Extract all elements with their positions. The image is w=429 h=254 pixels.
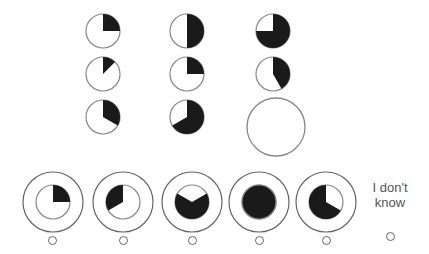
pie-fill xyxy=(103,14,120,31)
grid-cell-r1c1 xyxy=(86,14,120,48)
dont-know-label: I don't know xyxy=(360,180,420,210)
radio-dont-know[interactable] xyxy=(386,232,395,241)
dont-know-line2: know xyxy=(360,195,420,210)
puzzle-diagram xyxy=(0,0,429,254)
radio-option-d[interactable] xyxy=(255,236,264,245)
grid-cell-r3c2 xyxy=(170,100,204,134)
radio-option-e[interactable] xyxy=(322,236,331,245)
pie-fill xyxy=(242,185,276,219)
option-b xyxy=(93,172,153,232)
radio-option-a[interactable] xyxy=(48,236,57,245)
pie-fill xyxy=(187,14,204,48)
option-e xyxy=(296,172,356,232)
grid-cell-r2c3 xyxy=(256,57,290,91)
dont-know-line1: I don't xyxy=(360,180,420,195)
grid-cell-r2c2 xyxy=(170,57,204,91)
missing-cell-circle xyxy=(247,98,305,156)
grid-cell-r2c1 xyxy=(86,57,120,91)
grid-cell-r1c3 xyxy=(256,14,290,48)
radio-option-c[interactable] xyxy=(188,236,197,245)
grid-cell-r3c1 xyxy=(86,100,120,134)
option-d xyxy=(229,172,289,232)
pie-fill xyxy=(187,57,204,74)
grid-cell-r1c2 xyxy=(170,14,204,48)
radio-option-b[interactable] xyxy=(119,236,128,245)
option-a xyxy=(23,172,83,232)
option-c xyxy=(162,172,222,232)
